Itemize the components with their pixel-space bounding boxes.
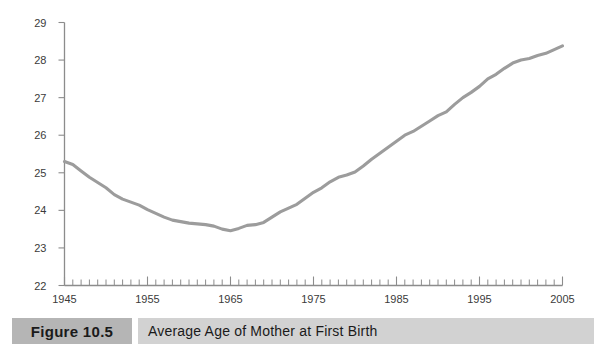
y-axis-tick-labels: 2928272625242322: [34, 17, 46, 292]
caption-text-box: Average Age of Mother at First Birth: [138, 318, 594, 344]
y-tick-label: 28: [34, 54, 46, 66]
x-tick-label: 1955: [135, 293, 159, 305]
line-chart: 2928272625242322 19451955196519751985199…: [0, 0, 594, 312]
y-tick-label: 22: [34, 280, 46, 292]
chart-area: 2928272625242322 19451955196519751985199…: [0, 0, 594, 312]
x-axis-tick-labels: 1945195519651975198519952005: [52, 293, 574, 305]
y-tick-label: 23: [34, 242, 46, 254]
y-tick-label: 26: [34, 129, 46, 141]
x-tick-label: 1995: [467, 293, 491, 305]
figure-number-box: Figure 10.5: [12, 318, 132, 344]
y-tick-label: 27: [34, 92, 46, 104]
x-tick-label: 2005: [550, 293, 574, 305]
figure-caption-label: Average Age of Mother at First Birth: [138, 323, 378, 339]
y-tick-label: 25: [34, 167, 46, 179]
x-tick-label: 1975: [301, 293, 325, 305]
x-tick-label: 1945: [52, 293, 76, 305]
caption-strip: Figure 10.5 Average Age of Mother at Fir…: [0, 318, 594, 344]
figure-number-label: Figure 10.5: [31, 323, 114, 340]
figure-page: 2928272625242322 19451955196519751985199…: [0, 0, 594, 345]
y-tick-label: 24: [34, 204, 46, 216]
data-series-line: [65, 46, 563, 231]
x-tick-label: 1985: [384, 293, 408, 305]
y-tick-label: 29: [34, 17, 46, 29]
y-axis-tick-marks: [59, 23, 65, 286]
x-tick-label: 1965: [218, 293, 242, 305]
